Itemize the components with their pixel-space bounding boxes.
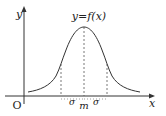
x-axis-label: x	[149, 97, 156, 110]
left-sigma-label: σ	[69, 97, 76, 107]
origin-label: O	[12, 99, 21, 112]
normal-curve-diagram: y=f(x) y x O σ m σ	[0, 0, 166, 116]
mean-label: m	[79, 100, 88, 111]
y-axis-label: y	[15, 8, 23, 21]
dashed-guides	[61, 27, 107, 96]
y-axis-arrow-icon	[22, 6, 27, 12]
right-sigma-label: σ	[93, 97, 100, 107]
function-label: y=f(x)	[71, 10, 106, 23]
